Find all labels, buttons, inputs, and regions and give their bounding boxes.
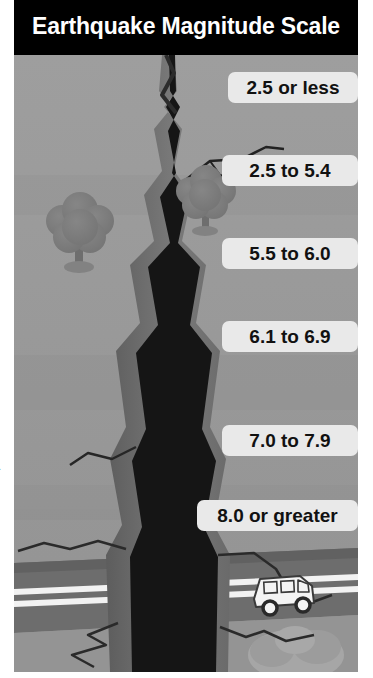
title-bar: Earthquake Magnitude Scale: [14, 0, 358, 55]
magnitude-label-5: 8.0 or greater: [197, 500, 358, 531]
magnitude-label-0: 2.5 or less: [228, 72, 358, 103]
magnitude-label-4: 7.0 to 7.9: [222, 425, 358, 456]
magnitude-label-2: 5.5 to 6.0: [222, 238, 358, 269]
margin-text-fragment: n.: [0, 458, 6, 474]
magnitude-label-1: 2.5 to 5.4: [222, 155, 358, 186]
illustration-svg: [14, 55, 358, 672]
page-title: Earthquake Magnitude Scale: [14, 13, 358, 40]
illustration-scene: [14, 55, 358, 672]
magnitude-label-3: 6.1 to 6.9: [222, 321, 358, 352]
earthquake-magnitude-poster: n. Earthquake Magnitude Scale: [0, 0, 373, 678]
